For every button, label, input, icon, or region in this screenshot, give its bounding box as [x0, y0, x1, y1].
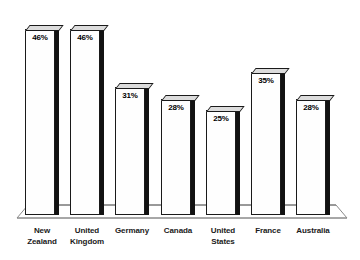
category-label-line: Kingdom — [58, 237, 116, 248]
bar-front-face — [206, 110, 236, 215]
bar[interactable]: 28% — [161, 95, 195, 215]
bar-front-face — [161, 99, 191, 215]
bar-top-face — [296, 95, 335, 101]
bar-front-face — [115, 87, 145, 215]
bar-front-face — [296, 99, 326, 215]
bar-top-face — [115, 83, 154, 89]
bar-value-label: 25% — [206, 114, 236, 124]
bar-top-face — [25, 25, 64, 31]
bar-top-face — [161, 95, 200, 101]
bar[interactable]: 31% — [115, 83, 149, 215]
bar-chart: 46%46%31%28%25%35%28% NewZealandUnitedKi… — [0, 0, 360, 260]
plot-area: 46%46%31%28%25%35%28% — [0, 0, 360, 215]
bar-column: 28% — [296, 95, 330, 215]
bar-front-face — [70, 29, 100, 215]
bar[interactable]: 28% — [296, 95, 330, 215]
bar[interactable]: 25% — [206, 106, 240, 215]
bar-column: 35% — [251, 68, 285, 215]
bar-column: 31% — [115, 83, 149, 215]
bar-value-label: 35% — [251, 76, 281, 86]
bar-top-face — [206, 106, 245, 112]
bar[interactable]: 46% — [70, 25, 104, 215]
bar-value-label: 46% — [70, 33, 100, 43]
bar-value-label: 46% — [25, 33, 55, 43]
bar[interactable]: 35% — [251, 68, 285, 215]
bar-value-label: 28% — [296, 103, 326, 113]
category-label-line: States — [194, 237, 252, 248]
bar-column: 28% — [161, 95, 195, 215]
bar-top-face — [251, 68, 290, 74]
bar[interactable]: 46% — [25, 25, 59, 215]
category-label-line: Australia — [284, 226, 342, 237]
bar-top-face — [70, 25, 109, 31]
category-label: Australia — [284, 226, 342, 237]
bar-value-label: 31% — [115, 91, 145, 101]
bar-column: 46% — [70, 25, 104, 215]
bar-column: 25% — [206, 106, 240, 215]
category-axis: NewZealandUnitedKingdomGermanyCanadaUnit… — [0, 226, 360, 260]
bar-front-face — [251, 72, 281, 215]
bar-value-label: 28% — [161, 103, 191, 113]
bar-column: 46% — [25, 25, 59, 215]
bar-front-face — [25, 29, 55, 215]
